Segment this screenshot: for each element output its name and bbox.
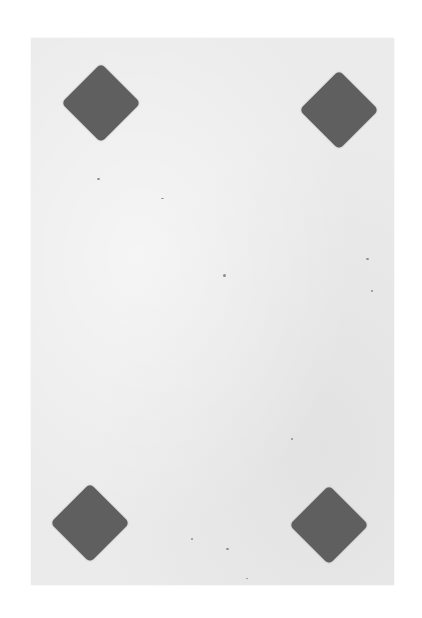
paper-speck (191, 538, 193, 540)
diamond-top-left (61, 63, 140, 142)
paper-speck (291, 438, 293, 440)
paper-speck (226, 548, 229, 550)
paper-speck (223, 274, 226, 277)
diamond-bottom-right (289, 485, 368, 564)
diamond-bottom-left (50, 483, 129, 562)
card (31, 38, 394, 585)
paper-speck (371, 290, 373, 292)
paper-speck (161, 198, 164, 199)
paper-speck (97, 178, 100, 180)
paper-speck (366, 258, 369, 260)
paper-speck (246, 578, 248, 579)
diamond-top-right (299, 70, 378, 149)
